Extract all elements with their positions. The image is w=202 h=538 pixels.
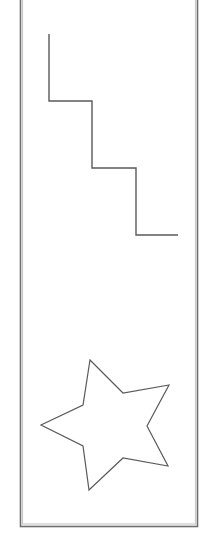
- diagram-canvas: [0, 0, 202, 538]
